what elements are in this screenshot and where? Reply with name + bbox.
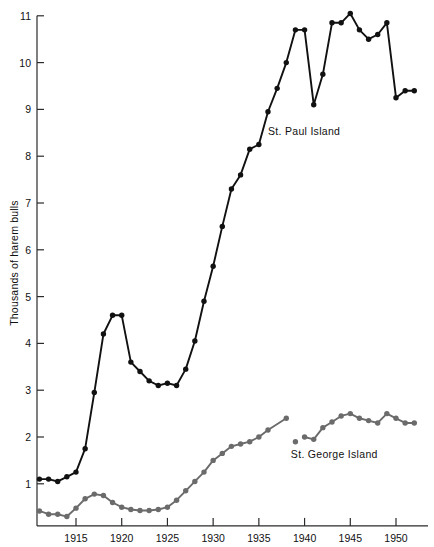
data-point: [256, 142, 261, 147]
data-point: [119, 505, 124, 510]
data-point: [137, 369, 142, 374]
data-point: [165, 380, 170, 385]
data-point: [384, 20, 389, 25]
data-point: [302, 434, 307, 439]
data-point: [357, 27, 362, 32]
data-point: [247, 146, 252, 151]
data-point: [357, 416, 362, 421]
y-tick-label: 10: [19, 57, 31, 69]
x-tick-label: 1935: [247, 532, 271, 544]
y-tick-label: 6: [25, 244, 31, 256]
data-point: [46, 512, 51, 517]
data-point: [329, 419, 334, 424]
data-point: [64, 474, 69, 479]
data-point: [393, 416, 398, 421]
data-point: [55, 479, 60, 484]
y-tick-label: 8: [25, 150, 31, 162]
data-point: [320, 72, 325, 77]
y-tick-label: 4: [25, 337, 31, 349]
data-point: [229, 186, 234, 191]
x-tick-label: 1945: [339, 532, 363, 544]
data-point: [348, 11, 353, 16]
data-point: [402, 88, 407, 93]
data-point: [146, 508, 151, 513]
data-point: [73, 505, 78, 510]
y-tick-label: 3: [25, 384, 31, 396]
y-tick-label: 2: [25, 431, 31, 443]
data-point: [402, 420, 407, 425]
data-point: [412, 88, 417, 93]
data-point: [338, 20, 343, 25]
data-point: [293, 439, 298, 444]
y-tick-label: 9: [25, 103, 31, 115]
data-point: [192, 338, 197, 343]
data-point: [64, 514, 69, 519]
data-point: [82, 496, 87, 501]
data-point: [293, 27, 298, 32]
data-point: [210, 458, 215, 463]
data-point: [265, 427, 270, 432]
x-tick-label: 1925: [156, 532, 180, 544]
data-point: [128, 507, 133, 512]
series-line: [39, 13, 414, 481]
data-point: [110, 313, 115, 318]
x-tick-label: 1930: [201, 532, 225, 544]
data-point: [201, 469, 206, 474]
x-tick-label: 1950: [384, 532, 408, 544]
st-george-island-label: St. George Island: [291, 448, 378, 460]
data-point: [156, 383, 161, 388]
data-point: [366, 418, 371, 423]
data-point: [174, 383, 179, 388]
data-point: [92, 491, 97, 496]
y-tick-label: 1: [25, 478, 31, 490]
y-tick-label: 7: [25, 197, 31, 209]
data-point: [338, 413, 343, 418]
data-point: [247, 439, 252, 444]
x-tick-label: 1915: [64, 532, 88, 544]
data-point: [201, 299, 206, 304]
data-point: [366, 37, 371, 42]
data-point: [210, 263, 215, 268]
data-point: [174, 497, 179, 502]
series-line: [39, 418, 286, 516]
data-point: [37, 508, 42, 513]
data-point: [192, 479, 197, 484]
data-point: [183, 488, 188, 493]
data-point: [375, 420, 380, 425]
data-point: [284, 60, 289, 65]
data-point: [393, 95, 398, 100]
x-tick-label: 1920: [110, 532, 134, 544]
data-point: [302, 27, 307, 32]
data-point: [348, 411, 353, 416]
data-point: [329, 20, 334, 25]
x-tick-label: 1940: [293, 532, 317, 544]
data-point: [110, 500, 115, 505]
data-point: [82, 446, 87, 451]
data-point: [146, 378, 151, 383]
data-point: [412, 420, 417, 425]
data-point: [165, 505, 170, 510]
data-point: [73, 469, 78, 474]
chart-figure: Thousands of harem bulls 123456789101119…: [0, 0, 434, 547]
st-paul-island-label: St. Paul Island: [268, 125, 340, 137]
data-point: [265, 109, 270, 114]
data-point: [256, 434, 261, 439]
data-point: [238, 172, 243, 177]
data-point: [238, 441, 243, 446]
series-st-paul-island: [37, 11, 417, 484]
series-st-george-island: [37, 411, 417, 519]
y-tick-label: 11: [20, 10, 31, 22]
data-point: [311, 437, 316, 442]
data-point: [384, 411, 389, 416]
data-point: [101, 331, 106, 336]
data-point: [37, 476, 42, 481]
line-chart-plot: 1234567891011191519201925193019351940194…: [0, 0, 434, 547]
data-point: [220, 451, 225, 456]
data-point: [55, 512, 60, 517]
y-tick-label: 5: [25, 291, 31, 303]
data-point: [137, 508, 142, 513]
data-point: [229, 444, 234, 449]
data-point: [375, 32, 380, 37]
data-point: [46, 476, 51, 481]
data-point: [320, 425, 325, 430]
